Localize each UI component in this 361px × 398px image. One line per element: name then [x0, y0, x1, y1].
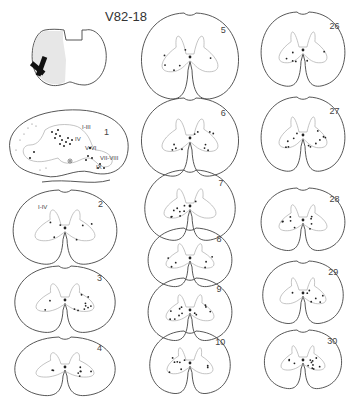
neuron-dot — [310, 146, 312, 148]
neuron-dot — [285, 146, 287, 148]
neuron-dot — [290, 220, 292, 222]
neuron-dot — [313, 368, 315, 370]
neuron-dot — [195, 201, 197, 203]
gray-matter — [36, 284, 94, 312]
lamina-label: IV — [75, 136, 81, 142]
neuron-dot — [317, 130, 319, 132]
section-5: 5 — [141, 13, 238, 99]
neuron-dot — [180, 368, 182, 370]
section-10: 10 — [150, 331, 230, 394]
neuron-dot — [323, 51, 325, 53]
neuron-dot — [287, 140, 289, 142]
neuron-dot — [184, 49, 186, 51]
central-canal — [64, 299, 67, 302]
section-label: 8 — [216, 234, 221, 244]
neuron-dot — [170, 216, 172, 218]
neuron-dot — [195, 314, 197, 316]
section-label: 4 — [97, 343, 102, 353]
neuron-dot — [307, 365, 309, 367]
neuron-dot — [211, 256, 213, 258]
neuron-dot — [319, 366, 321, 368]
section-3: 3 — [15, 266, 115, 332]
section-label: 7 — [219, 178, 224, 188]
gray-matter — [166, 295, 214, 321]
neuron-dot — [169, 371, 171, 373]
neuron-dot — [286, 58, 288, 60]
central-canal — [189, 309, 192, 312]
neuron-dot — [179, 65, 181, 67]
neuron-dot — [205, 306, 207, 308]
neuron-dot — [77, 372, 79, 374]
neuron-dot — [76, 239, 78, 241]
neuron-dot — [294, 227, 296, 229]
neuron-dot — [207, 149, 209, 151]
neuron-dot — [85, 302, 87, 304]
neuron-dot — [174, 361, 176, 363]
neuron-dot — [315, 298, 317, 300]
neuron-dot — [319, 139, 321, 141]
neuron-dot — [194, 312, 196, 314]
lamina-label: I-III — [82, 124, 91, 130]
neuron-dot — [176, 207, 178, 209]
neuron-dot — [87, 307, 89, 309]
central-canal — [302, 359, 305, 362]
neuron-dot — [179, 215, 181, 217]
neuron-dot — [79, 375, 81, 377]
neuron-dot — [292, 292, 294, 294]
neuron-dot — [184, 359, 186, 361]
gray-matter — [167, 348, 213, 374]
neuron-dot — [311, 216, 313, 218]
section-1: 1 I-III IV V-VI VII-VIII IX — [10, 110, 129, 182]
section-2: 2I-IV — [13, 190, 117, 264]
neuron-dot — [171, 149, 173, 151]
neuron-dot — [90, 371, 92, 373]
gray-matter — [36, 353, 94, 377]
neuron-dot — [294, 362, 296, 364]
lesion-diagram — [30, 29, 106, 85]
section-28: 28 — [261, 188, 345, 251]
section-label: 2 — [98, 199, 103, 209]
neuron-dot — [172, 357, 174, 359]
neuron-dot — [309, 228, 311, 230]
neuron-dot — [181, 306, 183, 308]
central-canal — [64, 227, 67, 230]
neuron-dot — [292, 52, 294, 54]
neuron-dot — [184, 205, 186, 207]
neuron-dot — [91, 223, 93, 225]
section-7: 7 — [145, 170, 235, 240]
section-label: 3 — [97, 273, 102, 283]
neuron-dot — [83, 308, 85, 310]
lamina-label: I-IV — [38, 204, 47, 210]
neuron-dot — [173, 69, 175, 71]
neuron-dot — [85, 305, 87, 307]
neuron-dot — [173, 210, 175, 212]
neuron-dot — [179, 361, 181, 363]
neuron-dot — [197, 131, 199, 133]
neuron-dot — [315, 357, 317, 359]
neuron-dot — [167, 257, 169, 259]
neuron-dot — [295, 60, 297, 62]
neuron-dot — [179, 211, 181, 213]
lamina-label: VII-VIII — [100, 155, 119, 161]
section-26: 26 — [261, 12, 345, 86]
neuron-dot — [176, 361, 178, 363]
gray-matter — [281, 346, 325, 370]
neuron-dot — [174, 318, 176, 320]
central-canal — [189, 205, 192, 208]
neuron-dot — [311, 362, 313, 364]
gray-matter — [279, 205, 327, 231]
lamina-label: IX — [96, 164, 102, 170]
central-canal — [189, 137, 192, 140]
neuron-dot — [281, 221, 283, 223]
section-9: 9 — [148, 278, 232, 341]
neuron-dot — [319, 301, 321, 303]
neuron-dot — [81, 294, 83, 296]
section-label: 9 — [216, 284, 221, 294]
gray-matter — [280, 278, 326, 304]
gray-matter — [164, 189, 216, 218]
neuron-dot — [50, 222, 52, 224]
section-label: 30 — [327, 336, 337, 346]
neuron-dot — [175, 147, 177, 149]
section-30: 30 — [264, 330, 341, 389]
gray-matter — [162, 36, 218, 72]
